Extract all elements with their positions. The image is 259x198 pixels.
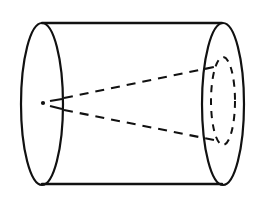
- figure-canvas: [0, 0, 259, 198]
- apex-point: [41, 101, 45, 105]
- background-rect: [0, 0, 259, 198]
- cylinder-cone-diagram: [0, 0, 259, 198]
